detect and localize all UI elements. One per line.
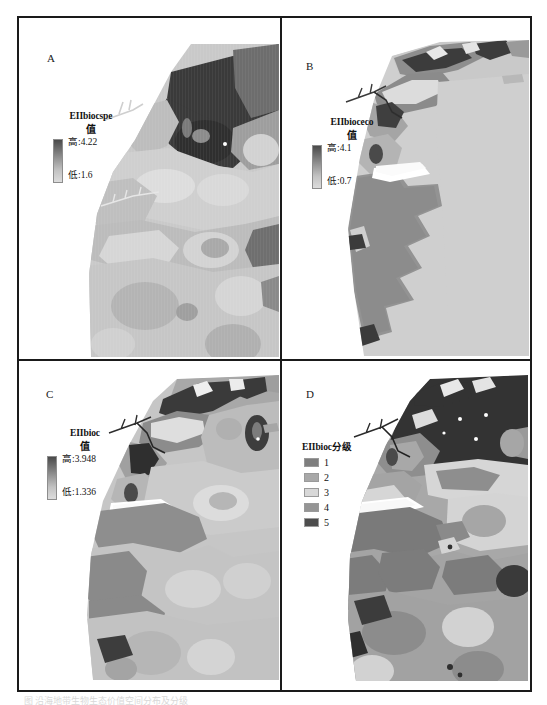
- panel-b: B EIIbioceco 值 高:4.1 低:0.7: [282, 18, 530, 359]
- legend-a-title: EIIbiocspe: [45, 110, 137, 122]
- panel-letter-a: A: [47, 52, 55, 64]
- legend-a-low-value: 低:1.6: [68, 170, 93, 181]
- legend-b-low-value: 低:0.7: [327, 176, 352, 187]
- legend-a-ramp: 高:4.22 低:1.6: [45, 137, 137, 185]
- legend-a-subtitle: 值: [45, 123, 137, 136]
- legend-d: EIIbioc分级 1 2 3 4: [302, 441, 402, 531]
- legend-c-subtitle: 值: [39, 440, 131, 453]
- legend-b-ramp: 高:4.1 低:0.7: [304, 143, 400, 191]
- class-swatch-2: [304, 473, 319, 482]
- panel-letter-b: B: [306, 60, 314, 72]
- panel-letter-c: C: [46, 388, 54, 400]
- legend-c: EIIbioc 值 高:3.948 低:1.336: [39, 427, 131, 502]
- legend-b-subtitle: 值: [304, 129, 400, 142]
- panel-d: D EIIbioc分级 1 2 3 4: [282, 361, 530, 690]
- class-label-5: 5: [324, 518, 329, 528]
- legend-class-row: 4: [302, 501, 402, 514]
- class-swatch-5: [304, 518, 319, 527]
- legend-b: EIIbioceco 值 高:4.1 低:0.7: [304, 116, 400, 191]
- class-label-1: 1: [324, 458, 329, 468]
- legend-a-high-value: 高:4.22: [68, 137, 97, 148]
- panel-c: C EIIbioc 值 高:3.948 低:1.336: [19, 361, 280, 690]
- class-label-4: 4: [324, 503, 329, 513]
- legend-d-class-list: 1 2 3 4 5: [302, 456, 402, 529]
- color-ramp-icon: [47, 456, 57, 500]
- panel-a: A EIIbiocspe 值 高:4.22 低:1.6: [19, 18, 280, 359]
- legend-c-ramp: 高:3.948 低:1.336: [39, 454, 131, 502]
- legend-c-high-value: 高:3.948: [62, 454, 96, 465]
- legend-b-high-value: 高:4.1: [327, 143, 352, 154]
- legend-c-low-value: 低:1.336: [62, 487, 96, 498]
- color-ramp-icon: [53, 139, 63, 183]
- map-b: [330, 40, 529, 356]
- class-swatch-3: [304, 488, 319, 497]
- legend-class-row: 1: [302, 456, 402, 469]
- legend-d-title: EIIbioc分级: [302, 441, 402, 453]
- legend-class-row: 2: [302, 471, 402, 484]
- class-label-3: 3: [324, 488, 329, 498]
- panel-letter-d: D: [306, 388, 314, 400]
- map-a: [83, 44, 279, 357]
- legend-class-row: 5: [302, 516, 402, 529]
- figure-caption-remnant: 图 沿海地带生物生态价值空间分布及分级: [24, 694, 524, 705]
- legend-b-title: EIIbioceco: [304, 116, 400, 128]
- map-c: [81, 375, 279, 680]
- class-swatch-1: [304, 458, 319, 467]
- color-ramp-icon: [312, 145, 322, 189]
- legend-a: EIIbiocspe 值 高:4.22 低:1.6: [45, 110, 137, 185]
- class-label-2: 2: [324, 473, 329, 483]
- figure-frame: A EIIbiocspe 值 高:4.22 低:1.6: [17, 16, 532, 692]
- legend-c-title: EIIbioc: [39, 427, 131, 439]
- class-swatch-4: [304, 503, 319, 512]
- legend-class-row: 3: [302, 486, 402, 499]
